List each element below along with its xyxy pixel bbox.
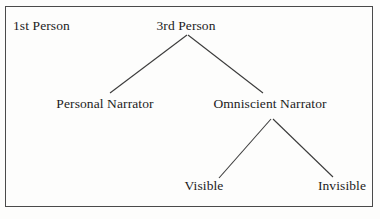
node-personal-narrator: Personal Narrator xyxy=(56,96,153,111)
edge-third-person-to-personal-narrator xyxy=(110,35,187,93)
edge-third-person-to-omniscient-narrator xyxy=(188,35,263,93)
node-visible: Visible xyxy=(185,178,224,193)
node-third-person: 3rd Person xyxy=(156,18,215,33)
diagram-figure: 1st Person 3rd Person Personal Narrator … xyxy=(0,0,380,219)
node-omniscient-narrator: Omniscient Narrator xyxy=(213,96,326,111)
node-invisible: Invisible xyxy=(318,178,366,193)
edge-omniscient-narrator-to-invisible xyxy=(273,119,333,177)
edge-omniscient-narrator-to-visible xyxy=(219,119,271,178)
node-first-person: 1st Person xyxy=(13,18,70,33)
